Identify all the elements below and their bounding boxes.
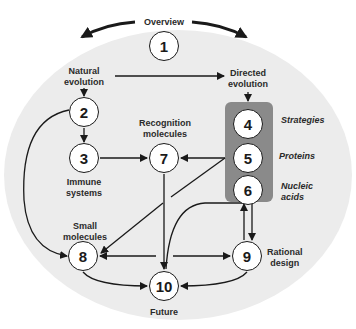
node-2: 2: [69, 97, 99, 127]
overview-label: Overview: [140, 17, 188, 28]
node-1: 1: [149, 31, 179, 61]
proteins-label: Proteins: [279, 151, 315, 162]
node-6: 6: [233, 175, 263, 205]
node-3: 3: [69, 143, 99, 173]
future-label: Future: [145, 307, 183, 318]
natural-evolution-label: Natural evolution: [58, 66, 110, 88]
small-molecules-label: Small molecules: [60, 221, 110, 243]
node-7: 7: [149, 143, 179, 173]
node-9: 9: [232, 241, 262, 271]
directed-evolution-label: Directed evolution: [222, 68, 274, 90]
node-5: 5: [233, 143, 263, 173]
strategies-label: Strategies: [281, 115, 325, 126]
node-10: 10: [149, 271, 179, 301]
node-4: 4: [233, 109, 263, 139]
nucleic-acids-label: Nucleic acids: [281, 181, 313, 203]
rational-design-label: Rational design: [267, 247, 303, 269]
node-8: 8: [68, 241, 98, 271]
immune-systems-label: Immune systems: [62, 177, 106, 199]
recognition-molecules-label: Recognition molecules: [136, 118, 194, 140]
